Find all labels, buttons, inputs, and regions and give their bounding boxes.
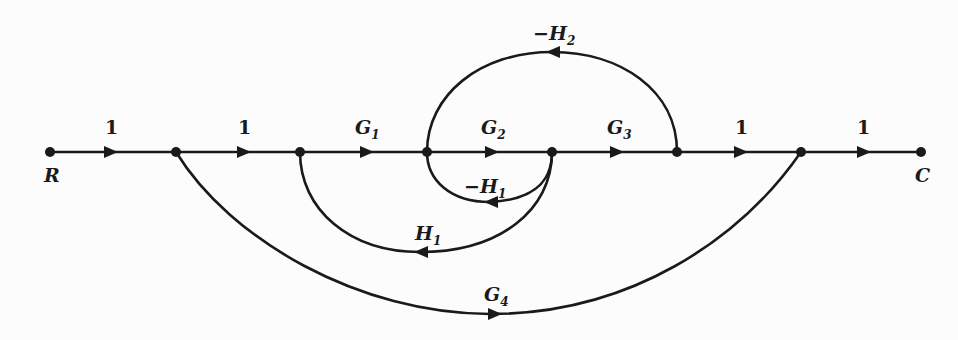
node-label-r: R [43,164,60,186]
gain-label-minus-h1: −H1 [464,175,506,201]
node-c [916,147,926,157]
node-2 [171,147,181,157]
arrow-right-icon [360,146,374,158]
node-4 [422,147,432,157]
arrow-left-icon [546,46,560,58]
node-3 [295,147,305,157]
node-label-c: C [915,164,930,186]
arrow-right-icon [488,308,502,320]
gain-label-n7-c: 1 [857,116,870,138]
gain-label-r-n2: 1 [105,116,118,138]
arrow-right-icon [857,146,871,158]
arrow-left-icon [414,246,428,258]
edge-minus-h2 [427,52,677,152]
arrow-right-icon [485,146,499,158]
node-6 [672,147,682,157]
gain-label-g4: G4 [484,283,509,309]
node-5 [547,147,557,157]
gain-label-h1: H1 [414,222,441,248]
arrow-left-icon [484,196,498,208]
signal-flow-graph: R C 1 1 G1 G2 G3 1 1 −H2 −H1 H1 G4 [0,0,958,340]
arrow-right-icon [237,146,251,158]
gain-label-n6-n7: 1 [735,116,748,138]
gain-label-g1: G1 [355,116,380,142]
gain-label-minus-h2: −H2 [533,22,575,48]
arrow-right-icon [104,146,118,158]
node-r [45,147,55,157]
gain-label-g2: G2 [481,116,506,142]
gain-label-g3: G3 [607,116,632,142]
arrow-right-icon [734,146,748,158]
node-7 [796,147,806,157]
arrow-right-icon [610,146,624,158]
gain-label-n2-n3: 1 [238,116,251,138]
